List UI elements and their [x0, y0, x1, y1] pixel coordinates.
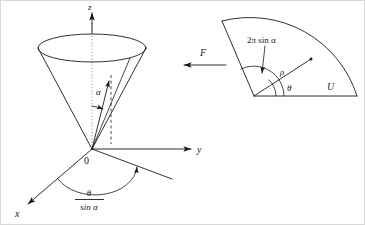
z-axis-label: z — [87, 2, 92, 12]
force-label: F — [199, 47, 207, 58]
origin-label: 0 — [84, 155, 89, 166]
sector-slant-edge — [222, 21, 254, 96]
sector-angle-leader — [262, 46, 265, 73]
alpha-angle-label: α — [96, 87, 101, 97]
sector-angle-label: 2π sin α — [247, 35, 276, 45]
force-arrow-group: F — [184, 47, 226, 65]
cone-right-slant — [92, 48, 146, 149]
rho-endpoint-dot — [310, 58, 313, 61]
cone-left-slant — [38, 48, 92, 149]
alpha-angle-arc — [92, 106, 103, 109]
left-cone-figure: α y x z 0 θ sin α — [14, 2, 202, 219]
fraction-denominator: sin α — [80, 202, 98, 212]
ground-angle-fraction: θ sin α — [75, 188, 104, 212]
right-sector-figure: 2π sin α ρ θ U — [222, 17, 357, 96]
fraction-numerator: θ — [87, 188, 92, 198]
x-axis-label: x — [14, 208, 20, 219]
theta-label: θ — [287, 83, 292, 93]
y-axis-label: y — [196, 144, 202, 155]
figure-container: α y x z 0 θ sin α F — [0, 0, 365, 225]
region-label: U — [327, 81, 335, 92]
x-axis-arrow — [28, 149, 92, 204]
diagram-canvas: α y x z 0 θ sin α F — [1, 1, 365, 225]
rho-label: ρ — [279, 67, 285, 77]
azimuth-angle-arc — [58, 167, 137, 195]
ground-projection-ray — [92, 149, 172, 179]
